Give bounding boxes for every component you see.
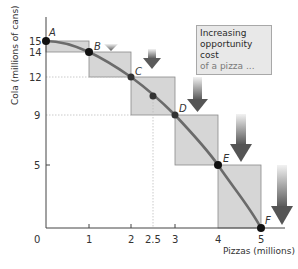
annotation-line-2: opportunity cost — [200, 39, 268, 61]
y-tick-label-5: 5 — [34, 160, 40, 171]
down-arrow-4 — [230, 114, 252, 162]
y-tick-label-12: 12 — [29, 72, 42, 83]
x-tick-label-3: 3 — [172, 234, 178, 245]
y-axis-title: Cola (millions of cans) — [10, 5, 20, 105]
x-axis-title: Pizzas (millions) — [223, 246, 295, 256]
point-f — [257, 224, 265, 232]
label-point-f: F — [265, 215, 271, 226]
annotation-box: Increasing opportunity cost of a pizza .… — [196, 25, 272, 75]
x-tick-label-4: 4 — [215, 234, 221, 245]
point-b — [85, 48, 93, 56]
down-arrow-2 — [143, 49, 161, 69]
down-arrow-5 — [271, 165, 293, 225]
point-midpoint — [150, 93, 157, 100]
x-tick-label-2-5: 2.5 — [145, 234, 161, 245]
annotation-line-3: of a pizza ... — [200, 61, 268, 72]
label-point-e: E — [223, 153, 230, 164]
label-point-b: B — [94, 41, 101, 52]
point-e — [214, 161, 222, 169]
y-tick-label-15: 15 — [29, 36, 42, 47]
y-tick-label-9: 9 — [34, 110, 40, 121]
point-a — [42, 37, 50, 45]
label-point-a: A — [48, 27, 56, 38]
x-tick-label-2: 2 — [128, 234, 134, 245]
label-point-c: C — [135, 66, 142, 77]
annotation-line-1: Increasing — [200, 28, 268, 39]
point-c — [128, 74, 135, 81]
x-tick-label-0: 0 — [34, 234, 40, 245]
down-arrow-1 — [104, 44, 118, 51]
y-tick-label-14: 14 — [29, 47, 42, 58]
down-arrow-3 — [187, 77, 208, 112]
point-d — [172, 112, 179, 119]
label-point-d: D — [179, 103, 187, 114]
x-tick-label-5: 5 — [258, 234, 264, 245]
x-tick-label-1: 1 — [86, 234, 92, 245]
